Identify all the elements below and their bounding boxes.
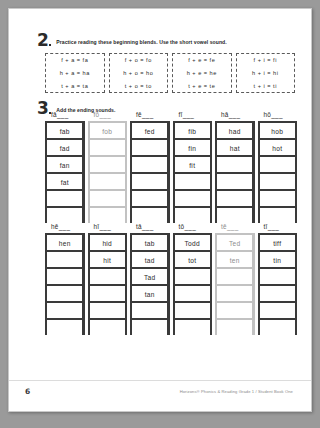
ladder-header: fĕ___ bbox=[133, 106, 167, 123]
ladder-blank-cell[interactable] bbox=[261, 286, 295, 303]
ladder-word: tot bbox=[188, 257, 196, 264]
ladder-rung bbox=[173, 318, 213, 320]
ladder-word-cell[interactable]: Todd bbox=[176, 235, 210, 252]
blend-line: h + o = ho bbox=[123, 70, 153, 77]
ladder-blank-cell[interactable] bbox=[91, 174, 125, 191]
ladder-word: tad bbox=[145, 257, 155, 264]
footer-credit: Horizons® Phonics & Reading Grade 1 / St… bbox=[180, 389, 293, 394]
ladder-blank-cell[interactable] bbox=[218, 286, 252, 303]
ladder-rung bbox=[88, 318, 128, 320]
ladder-word-cell[interactable]: fin bbox=[176, 140, 210, 157]
ladder-rung bbox=[88, 206, 128, 208]
ladder-word-cell[interactable]: fib bbox=[176, 123, 210, 140]
page-footer: 6 Horizons® Phonics & Reading Grade 1 / … bbox=[9, 380, 311, 411]
ladder-word-cell[interactable]: hit bbox=[91, 252, 125, 269]
ladder-row-2: hĕ___henhĭ___hidhittă___tabtadTadtantŏ__… bbox=[45, 233, 297, 335]
ladder-blank-cell[interactable] bbox=[48, 252, 82, 269]
ladder-word-cell[interactable]: hen bbox=[48, 235, 82, 252]
blend-line: h + a = ha bbox=[60, 70, 90, 77]
ladder-word: fob bbox=[102, 128, 112, 135]
ladder-header-label: hă___ bbox=[221, 111, 240, 118]
ladder-blank-cell[interactable] bbox=[261, 269, 295, 286]
ladder-word: fed bbox=[145, 128, 155, 135]
blend-line: h + e = he bbox=[187, 70, 217, 77]
ladder-rung bbox=[215, 206, 255, 208]
ladder-word: fab bbox=[60, 128, 70, 135]
ladder-blank-cell[interactable] bbox=[48, 269, 82, 286]
ladder-rung bbox=[45, 206, 85, 208]
ladder-header-label: hĕ___ bbox=[51, 223, 70, 230]
exercise-2-instruction: Practice reading these beginning blends.… bbox=[56, 39, 226, 45]
blend-box-o: f + o = fo h + o = ho t + o = to bbox=[109, 53, 169, 93]
ladder-header-label: hŏ___ bbox=[264, 111, 283, 118]
word-ladder: tă___tabtadTadtan bbox=[130, 233, 170, 335]
ladder-word: Todd bbox=[185, 240, 201, 247]
ladder-word-cell[interactable]: tin bbox=[261, 252, 295, 269]
ladder-rung bbox=[215, 318, 255, 320]
ladder-blank-cell[interactable] bbox=[91, 157, 125, 174]
ladder-word-cell[interactable]: fob bbox=[91, 123, 125, 140]
ladder-rung bbox=[130, 318, 170, 320]
ladder-blank-cell[interactable] bbox=[48, 286, 82, 303]
blend-line: f + e = fe bbox=[188, 57, 215, 64]
ladder-word-cell[interactable]: hat bbox=[218, 140, 252, 157]
ladder-word: hat bbox=[230, 145, 240, 152]
blend-box-e: f + e = fe h + e = he t + e = te bbox=[172, 53, 232, 93]
ladder-word-cell[interactable]: fad bbox=[48, 140, 82, 157]
ladder-blank-cell[interactable] bbox=[133, 157, 167, 174]
blend-line: t + e = te bbox=[188, 83, 215, 90]
ladder-word-cell[interactable]: fit bbox=[176, 157, 210, 174]
ladder-blank-cell[interactable] bbox=[91, 269, 125, 286]
ladder-blank-cell[interactable] bbox=[218, 157, 252, 174]
ladder-word-cell[interactable]: fab bbox=[48, 123, 82, 140]
ladder-word-cell[interactable]: Tad bbox=[133, 269, 167, 286]
ladder-blank-cell[interactable] bbox=[176, 269, 210, 286]
ladder-word-cell[interactable]: had bbox=[218, 123, 252, 140]
ladder-word-cell[interactable]: fan bbox=[48, 157, 82, 174]
ladder-word-cell[interactable]: hot bbox=[261, 140, 295, 157]
ladder-word-cell[interactable]: tan bbox=[133, 286, 167, 303]
ladder-blank-cell[interactable] bbox=[176, 174, 210, 191]
ladder-word-cell[interactable]: ten bbox=[218, 252, 252, 269]
ladder-header-label: fŏ___ bbox=[94, 111, 112, 118]
ladder-header: fă___ bbox=[48, 106, 82, 123]
ladder-word-cell[interactable]: tiff bbox=[261, 235, 295, 252]
ladder-word-cell[interactable]: tot bbox=[176, 252, 210, 269]
ladder-blank-cell[interactable] bbox=[133, 140, 167, 157]
ladder-word-cell[interactable]: fed bbox=[133, 123, 167, 140]
ladder-rung bbox=[173, 206, 213, 208]
ladder-word-cell[interactable]: Ted bbox=[218, 235, 252, 252]
ladder-rung bbox=[45, 318, 85, 320]
blend-line: t + o = to bbox=[125, 83, 152, 90]
word-ladder: fĭ___fibfinfit bbox=[173, 121, 213, 223]
blend-line: t + a = ta bbox=[61, 83, 88, 90]
ladder-header-label: tŏ___ bbox=[179, 223, 197, 230]
word-ladder: hĕ___hen bbox=[45, 233, 85, 335]
ladder-word-cell[interactable]: hob bbox=[261, 123, 295, 140]
ladder-blank-cell[interactable] bbox=[218, 174, 252, 191]
ladder-header: hĭ___ bbox=[91, 218, 125, 235]
page-number: 6 bbox=[25, 387, 30, 396]
ladder-blank-cell[interactable] bbox=[91, 140, 125, 157]
ladder-word-cell[interactable]: hid bbox=[91, 235, 125, 252]
ladder-blank-cell[interactable] bbox=[261, 157, 295, 174]
ladder-word-cell[interactable]: fat bbox=[48, 174, 82, 191]
ladder-header: tĕ___ bbox=[218, 218, 252, 235]
ladder-blank-cell[interactable] bbox=[133, 174, 167, 191]
ladder-header: hă___ bbox=[218, 106, 252, 123]
blend-line: f + o = fo bbox=[125, 57, 152, 64]
ladder-blank-cell[interactable] bbox=[176, 286, 210, 303]
ladder-blank-cell[interactable] bbox=[91, 286, 125, 303]
ladder-header: hĕ___ bbox=[48, 218, 82, 235]
blend-box-row: f + a = fa h + a = ha t + a = ta f + o =… bbox=[45, 53, 295, 93]
ladder-word: ten bbox=[230, 257, 240, 264]
ladder-blank-cell[interactable] bbox=[218, 269, 252, 286]
ladder-row-1: fă___fabfadfanfatfŏ___fobfĕ___fedfĭ___fi… bbox=[45, 121, 297, 223]
ladder-word: hob bbox=[271, 128, 283, 135]
ladder-word-cell[interactable]: tad bbox=[133, 252, 167, 269]
ladder-word-cell[interactable]: tab bbox=[133, 235, 167, 252]
blend-line: f + a = fa bbox=[61, 57, 88, 64]
blend-box-i: f + i = fi h + i = hi t + i = ti bbox=[236, 53, 296, 93]
ladder-blank-cell[interactable] bbox=[261, 174, 295, 191]
ladder-header-label: fă___ bbox=[51, 111, 69, 118]
